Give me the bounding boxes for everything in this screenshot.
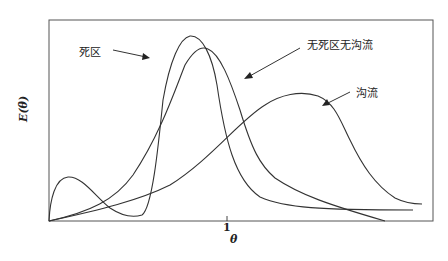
curve-dead-zone: [49, 36, 413, 221]
arrow-channeling: [322, 92, 350, 106]
label-ideal: 无死区无沟流: [307, 36, 373, 52]
curve-channeling: [49, 93, 422, 221]
curve-ideal: [49, 48, 385, 221]
x-axis-label: θ: [230, 233, 237, 246]
arrow-dead-zone: [113, 50, 150, 60]
label-channeling: 沟流: [356, 84, 378, 100]
y-axis-label: E(θ): [17, 96, 30, 122]
arrow-ideal: [244, 48, 300, 79]
label-dead-zone: 死区: [79, 43, 101, 59]
plot-frame: [49, 20, 433, 221]
